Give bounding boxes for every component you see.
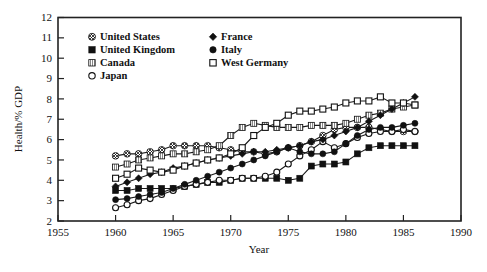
data-point-marker bbox=[412, 128, 418, 134]
legend-item-united-kingdom[interactable]: United Kingdom bbox=[89, 44, 175, 55]
data-point-marker bbox=[343, 100, 349, 106]
data-point-marker bbox=[182, 181, 188, 187]
data-point-marker bbox=[216, 177, 222, 183]
data-point-marker bbox=[262, 153, 268, 159]
data-point-marker bbox=[239, 161, 245, 167]
y-tick-label: 9 bbox=[47, 72, 53, 84]
data-point-marker bbox=[182, 163, 188, 169]
data-point-marker bbox=[159, 153, 165, 159]
data-point-marker bbox=[308, 163, 314, 169]
x-axis-ticks bbox=[58, 215, 461, 221]
y-tick-label: 12 bbox=[41, 11, 52, 23]
data-point-marker bbox=[124, 196, 130, 202]
data-point-marker bbox=[239, 175, 245, 181]
data-point-marker bbox=[297, 149, 303, 155]
data-point-marker bbox=[159, 190, 165, 196]
data-point-marker bbox=[193, 160, 199, 166]
data-point-marker bbox=[147, 167, 153, 173]
data-point-marker bbox=[251, 175, 257, 181]
data-point-marker bbox=[228, 165, 234, 171]
x-tick-label: 1975 bbox=[277, 226, 300, 238]
legend-item-canada[interactable]: Canada bbox=[89, 57, 136, 68]
data-point-marker bbox=[124, 171, 130, 177]
series-canada bbox=[113, 102, 418, 170]
data-point-marker bbox=[159, 169, 165, 175]
data-point-marker bbox=[365, 118, 372, 125]
data-point-marker bbox=[320, 106, 326, 112]
data-point-marker bbox=[297, 108, 303, 114]
data-point-marker bbox=[251, 157, 257, 163]
legend-item-united-states[interactable]: United States bbox=[89, 31, 160, 42]
x-tick-label: 1980 bbox=[335, 226, 358, 238]
data-point-marker bbox=[331, 161, 337, 167]
data-point-marker bbox=[366, 98, 372, 104]
legend-item-italy[interactable]: Italy bbox=[210, 44, 243, 55]
data-point-marker bbox=[170, 185, 176, 191]
y-axis-tick-labels: 23456789101112 bbox=[41, 11, 53, 227]
y-axis-ticks bbox=[58, 18, 64, 222]
data-point-marker bbox=[320, 122, 326, 128]
data-point-marker bbox=[135, 175, 142, 182]
legend-label: France bbox=[221, 31, 253, 42]
data-point-marker bbox=[412, 102, 418, 108]
data-point-marker bbox=[89, 33, 96, 40]
data-point-marker bbox=[297, 175, 303, 181]
legend-item-west-germany[interactable]: West Germany bbox=[210, 57, 289, 68]
data-point-marker bbox=[320, 151, 326, 157]
data-point-marker bbox=[308, 151, 314, 157]
data-point-marker bbox=[285, 177, 291, 183]
data-point-marker bbox=[182, 151, 188, 157]
data-point-marker bbox=[135, 151, 142, 158]
data-point-marker bbox=[400, 122, 406, 128]
data-point-marker bbox=[113, 205, 119, 211]
data-point-marker bbox=[366, 145, 372, 151]
data-point-marker bbox=[285, 112, 291, 118]
data-point-marker bbox=[205, 147, 211, 153]
data-point-marker bbox=[366, 112, 372, 118]
data-point-marker bbox=[400, 100, 406, 106]
data-point-marker bbox=[331, 122, 337, 128]
data-point-marker bbox=[124, 179, 131, 186]
data-point-marker bbox=[274, 120, 280, 126]
data-point-marker bbox=[412, 120, 418, 126]
data-point-marker bbox=[343, 159, 349, 165]
data-point-marker bbox=[170, 167, 176, 173]
legend-item-france[interactable]: France bbox=[209, 31, 253, 42]
data-point-marker bbox=[193, 149, 199, 155]
legend-label: Canada bbox=[100, 57, 136, 68]
x-axis-tick-labels: 19551960196519701975198019851990 bbox=[47, 226, 473, 238]
legend-label: Italy bbox=[221, 44, 243, 55]
y-tick-label: 8 bbox=[47, 93, 53, 105]
series-japan bbox=[113, 126, 418, 210]
data-point-marker bbox=[251, 133, 257, 139]
data-point-marker bbox=[170, 151, 176, 157]
data-point-marker bbox=[136, 194, 142, 200]
series-west-germany bbox=[113, 94, 418, 181]
data-point-marker bbox=[89, 73, 95, 79]
data-point-marker bbox=[239, 145, 245, 151]
x-tick-label: 1960 bbox=[105, 226, 128, 238]
data-point-marker bbox=[216, 143, 222, 149]
data-point-marker bbox=[113, 164, 119, 170]
data-point-marker bbox=[228, 133, 234, 139]
data-point-marker bbox=[112, 153, 119, 160]
data-point-marker bbox=[412, 143, 418, 149]
line-chart: 23456789101112 1955196019651970197519801… bbox=[0, 0, 487, 272]
legend-item-japan[interactable]: Japan bbox=[89, 70, 128, 81]
legend-label: West Germany bbox=[221, 57, 289, 68]
data-point-marker bbox=[124, 202, 130, 208]
data-point-marker bbox=[136, 185, 142, 191]
data-point-marker bbox=[136, 165, 142, 171]
data-point-marker bbox=[343, 120, 349, 126]
data-point-marker bbox=[308, 122, 314, 128]
data-point-marker bbox=[124, 151, 131, 158]
data-point-marker bbox=[124, 187, 130, 193]
data-point-marker bbox=[205, 173, 211, 179]
data-point-marker bbox=[147, 185, 153, 191]
data-point-marker bbox=[136, 157, 142, 163]
data-point-marker bbox=[274, 175, 280, 181]
data-point-marker bbox=[331, 132, 338, 139]
data-point-marker bbox=[285, 124, 291, 130]
data-point-marker bbox=[147, 149, 154, 156]
data-point-marker bbox=[205, 179, 211, 185]
